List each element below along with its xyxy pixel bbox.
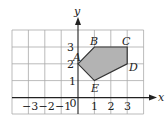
vertex-label-A: A (72, 51, 81, 64)
pentagon-ABCDE (78, 47, 127, 81)
vertex-label-C: C (122, 35, 131, 48)
x-tick-labels: −3 −2 −1 0 1 2 3 (22, 97, 131, 113)
x-tick-label: −2 (39, 100, 55, 113)
origin-label: 0 (70, 97, 77, 110)
x-tick-label: 1 (91, 100, 98, 113)
y-tick-labels: 1 2 3 (67, 41, 76, 88)
vertex-label-B: B (89, 35, 98, 48)
x-axis-label: x (158, 91, 165, 104)
x-tick-label: 2 (108, 100, 115, 113)
x-tick-label: −3 (22, 100, 38, 113)
x-tick-label: 3 (124, 100, 131, 113)
x-axis-arrow-icon (149, 95, 157, 101)
y-tick-label: 1 (69, 75, 76, 88)
y-axis-arrow-icon (75, 17, 81, 25)
vertex-label-E: E (90, 82, 99, 95)
coordinate-plane: x y −3 −2 −1 0 1 2 3 1 2 3 A B C D E (0, 0, 167, 125)
vertex-label-D: D (128, 61, 138, 74)
y-axis-label: y (73, 5, 81, 18)
